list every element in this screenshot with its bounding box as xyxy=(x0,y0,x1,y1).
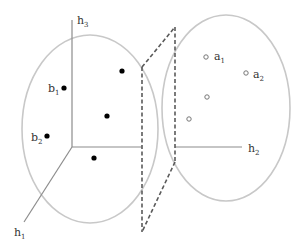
point-a4 xyxy=(187,117,191,121)
point-b1 xyxy=(61,85,66,90)
label-b1: b1 xyxy=(48,82,60,97)
point-a2 xyxy=(244,71,248,75)
axis-label-h1: h1 xyxy=(14,226,26,241)
point-a3 xyxy=(205,95,209,99)
point-b5 xyxy=(91,155,96,160)
point-b2 xyxy=(44,133,49,138)
right-cluster-ellipse xyxy=(162,15,290,201)
left-cluster-ellipse xyxy=(22,35,158,223)
label-a2: a2 xyxy=(253,68,264,83)
point-a1 xyxy=(204,55,208,59)
axis-label-h3: h3 xyxy=(77,14,89,29)
label-a1: a1 xyxy=(214,50,225,65)
label-b2: b2 xyxy=(31,131,43,146)
point-b3 xyxy=(119,68,124,73)
point-b4 xyxy=(104,113,109,118)
hyperplane-diagram: h3 h1 h2 b1 b2 a1 a2 xyxy=(0,0,300,248)
axis-label-h2: h2 xyxy=(248,142,260,157)
axis-h1 xyxy=(24,147,72,222)
